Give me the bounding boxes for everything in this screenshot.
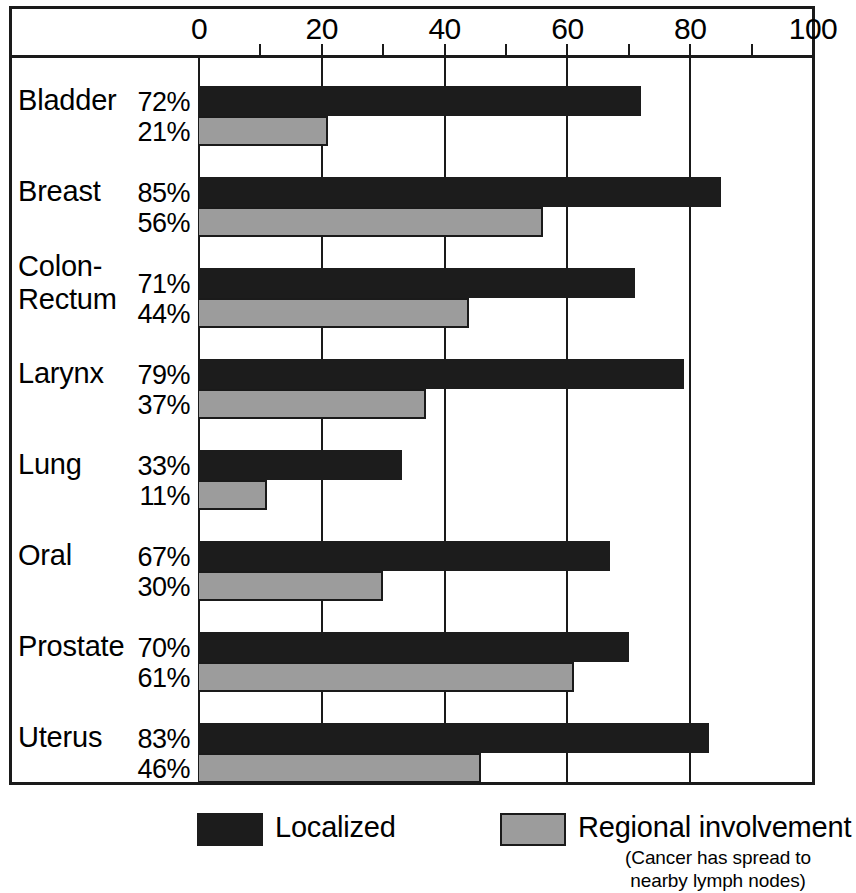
- bar-localized: [199, 177, 721, 207]
- x-tick-major: [321, 44, 323, 56]
- localized-value-label: 67%: [104, 542, 190, 572]
- regional-value-label: 21%: [104, 117, 190, 147]
- regional-value-label: 56%: [104, 208, 190, 238]
- x-tick-label: 40: [428, 14, 460, 44]
- x-tick-minor: [382, 44, 384, 56]
- regional-value-label: 30%: [104, 572, 190, 602]
- bar-regional: [199, 571, 383, 601]
- bar-localized: [199, 450, 402, 480]
- legend-swatch: [197, 813, 263, 846]
- bar-regional: [199, 480, 267, 510]
- x-tick-minor: [505, 44, 507, 56]
- category-label: Colon- Rectum: [18, 250, 117, 316]
- chart-top-border: [9, 6, 815, 9]
- x-tick-label: 0: [191, 14, 207, 44]
- localized-value-label: 33%: [104, 451, 190, 481]
- bar-regional: [199, 753, 481, 783]
- x-tick-major: [566, 44, 568, 56]
- regional-value-label: 11%: [104, 481, 190, 511]
- bar-regional: [199, 389, 426, 419]
- category-label: Lung: [18, 448, 82, 481]
- legend-swatch: [500, 813, 566, 846]
- x-tick-major: [444, 44, 446, 56]
- bar-regional: [199, 662, 574, 692]
- category-label: Oral: [18, 539, 72, 572]
- gridline: [689, 58, 691, 782]
- category-label: Breast: [18, 175, 101, 208]
- chart-left-border: [9, 6, 12, 785]
- regional-value-label: 61%: [104, 663, 190, 693]
- bar-localized: [199, 541, 610, 571]
- x-tick-label: 80: [674, 14, 706, 44]
- bar-localized: [199, 632, 629, 662]
- category-label: Larynx: [18, 357, 104, 390]
- regional-value-label: 37%: [104, 390, 190, 420]
- x-tick-label: 20: [306, 14, 338, 44]
- x-tick-major: [689, 44, 691, 56]
- x-tick-label: 60: [551, 14, 583, 44]
- bar-localized: [199, 359, 684, 389]
- regional-value-label: 44%: [104, 299, 190, 329]
- localized-value-label: 72%: [104, 87, 190, 117]
- x-tick-minor: [751, 44, 753, 56]
- x-tick-label: 100: [789, 14, 838, 44]
- localized-value-label: 79%: [104, 360, 190, 390]
- legend-label: Localized: [275, 810, 396, 844]
- x-axis-line: [9, 55, 815, 58]
- localized-value-label: 71%: [104, 269, 190, 299]
- bar-regional: [199, 116, 328, 146]
- category-label: Uterus: [18, 721, 102, 754]
- category-label: Bladder: [18, 84, 117, 117]
- bar-localized: [199, 268, 635, 298]
- bar-regional: [199, 207, 543, 237]
- chart-right-border: [812, 6, 815, 785]
- bar-localized: [199, 86, 641, 116]
- localized-value-label: 70%: [104, 633, 190, 663]
- localized-value-label: 85%: [104, 178, 190, 208]
- x-tick-minor: [628, 44, 630, 56]
- x-tick-minor: [259, 44, 261, 56]
- legend-label: Regional involvement: [578, 810, 851, 844]
- regional-value-label: 46%: [104, 754, 190, 784]
- bar-regional: [199, 298, 469, 328]
- legend-sublabel: (Cancer has spread to nearby lymph nodes…: [578, 846, 856, 892]
- localized-value-label: 83%: [104, 724, 190, 754]
- bar-localized: [199, 723, 709, 753]
